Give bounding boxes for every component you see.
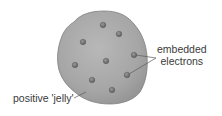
- electron-dot-icon: [72, 62, 78, 68]
- electron-dot-icon: [100, 22, 106, 28]
- electron-dot-icon: [89, 77, 95, 83]
- embedded-electrons-label: embedded electrons: [157, 43, 207, 67]
- positive-jelly-label: positive 'jelly': [13, 92, 74, 104]
- electron-dot-icon: [116, 31, 122, 37]
- electron-dot-icon: [124, 72, 130, 78]
- electron-dot-icon: [103, 58, 109, 64]
- embedded-electrons-label-line1: embedded: [157, 43, 207, 55]
- electron-dot-icon: [131, 52, 137, 58]
- electron-dot-icon: [80, 39, 86, 45]
- electron-dot-icon: [109, 87, 115, 93]
- embedded-electrons-label-line2: electrons: [157, 55, 207, 67]
